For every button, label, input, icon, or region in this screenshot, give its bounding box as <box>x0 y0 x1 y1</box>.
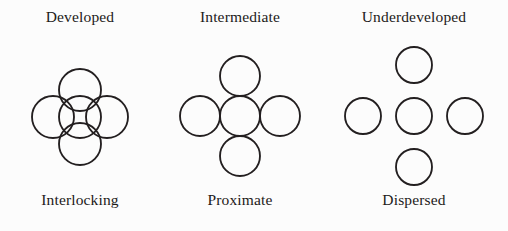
cluster-svg-developed-interlocking <box>15 40 145 190</box>
typology-column-underdeveloped: Underdeveloped Dispersed <box>320 0 508 231</box>
column-bottom-label: Proximate <box>160 191 320 209</box>
circle-right <box>260 96 300 136</box>
circle-cluster-interlocking <box>0 40 160 190</box>
circle-top <box>396 47 432 83</box>
circle-bottom <box>59 123 101 165</box>
circle-center <box>396 98 432 134</box>
circle-top <box>220 56 260 96</box>
circle-center <box>59 96 101 138</box>
column-top-label: Developed <box>0 8 160 26</box>
circle-left <box>345 98 381 134</box>
typology-column-developed: Developed Interlocking <box>0 0 160 231</box>
settlement-typology-figure: Developed Interlocking Intermediate Prox… <box>0 0 508 231</box>
circle-right <box>447 98 483 134</box>
circle-cluster-dispersed <box>320 40 508 190</box>
circle-center <box>220 96 260 136</box>
cluster-svg-intermediate-proximate <box>171 40 309 190</box>
typology-column-intermediate: Intermediate Proximate <box>160 0 320 231</box>
column-top-label: Underdeveloped <box>320 8 508 26</box>
circle-left <box>32 96 74 138</box>
circle-right <box>86 96 128 138</box>
circle-cluster-proximate <box>160 40 320 190</box>
circle-bottom <box>220 136 260 176</box>
circle-bottom <box>396 149 432 185</box>
column-bottom-label: Interlocking <box>0 191 160 209</box>
circle-left <box>180 96 220 136</box>
circle-top <box>59 69 101 111</box>
column-top-label: Intermediate <box>160 8 320 26</box>
column-bottom-label: Dispersed <box>320 191 508 209</box>
cluster-svg-underdeveloped-dispersed <box>322 40 506 190</box>
